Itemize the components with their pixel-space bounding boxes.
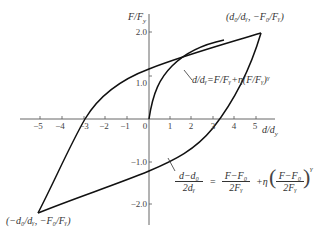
eq-equals: = [210, 177, 216, 187]
eq-rhs1-fraction: F−F₀ 2Fᵧ [222, 170, 250, 193]
hysteresis-chart [0, 0, 316, 235]
x-tick-label: 3 [205, 122, 221, 131]
eq-lhs-fraction: d−d₀ 2dᵧ [175, 170, 203, 193]
x-tick-label: −5 [30, 122, 46, 131]
x-tick-label: −1 [117, 122, 133, 131]
y-axis-label: F/Fy [128, 12, 146, 26]
bottom-left-point-label: (−d₀/dᵧ, −F₀/Fᵧ) [6, 216, 71, 226]
eq-exponent: γ [310, 164, 313, 174]
top-right-point-label: (d₀/dᵧ, −F₀/Fᵧ) [226, 12, 284, 22]
eq-plus-eta: +η [256, 177, 268, 187]
initial-curve-equation: d/dᵧ=F/Fᵧ+η(F/Fᵧ)ᵞ [192, 75, 269, 85]
x-tick-label: 5 [247, 122, 263, 131]
y-tick-label: 1.0 [121, 79, 147, 88]
x-tick-label: 4 [226, 122, 242, 131]
x-tick-label: 0 [137, 122, 153, 131]
x-tick-label: −4 [52, 122, 68, 131]
x-axis-label: d/dy [262, 125, 278, 139]
leader-line-initial [184, 70, 192, 80]
x-tick-label: 2 [183, 122, 199, 131]
x-tick-label: −2 [96, 122, 112, 131]
y-tick-label: −2.0 [121, 200, 147, 209]
eq-rhs2-fraction: F−F₀ 2Fᵧ [276, 170, 304, 193]
y-tick-label: 2.0 [121, 28, 147, 37]
y-tick-label: −1.0 [121, 158, 147, 167]
x-tick-label: 1 [162, 122, 178, 131]
x-tick-label: −3 [76, 122, 92, 131]
